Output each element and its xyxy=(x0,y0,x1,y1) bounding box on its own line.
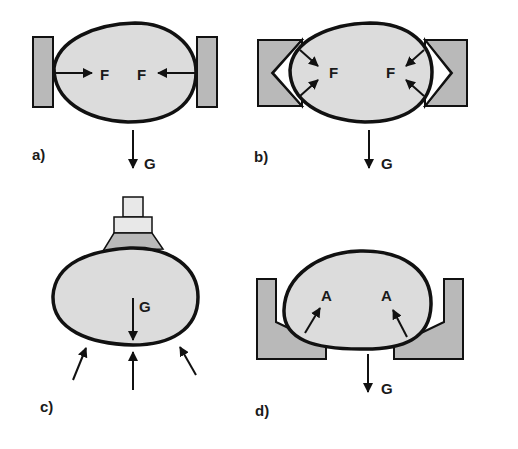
force-label: F xyxy=(386,64,395,81)
object xyxy=(290,23,432,122)
panel-d: A A G d) xyxy=(255,251,463,419)
force-label: F xyxy=(329,64,338,81)
gravity-label: G xyxy=(144,155,156,172)
object xyxy=(53,248,198,345)
panel-b: F F G b) xyxy=(254,23,467,172)
panel-label: a) xyxy=(32,146,45,163)
object xyxy=(284,251,431,349)
gravity-label: G xyxy=(139,298,151,315)
force-label: A xyxy=(381,287,392,304)
panel-label: c) xyxy=(40,398,53,415)
right-jaw xyxy=(197,37,217,107)
suction-collar xyxy=(114,217,152,233)
panel-c: G c) xyxy=(40,197,198,415)
force-label: A xyxy=(321,287,332,304)
gravity-label: G xyxy=(381,380,393,397)
force-label: F xyxy=(100,66,109,83)
left-jaw xyxy=(33,37,53,107)
gravity-label: G xyxy=(381,155,393,172)
panel-label: b) xyxy=(254,148,268,165)
suction-shaft xyxy=(123,197,143,217)
panel-label: d) xyxy=(255,402,269,419)
panel-a: F F G a) xyxy=(32,23,217,172)
gripping-principles-diagram: F F G a) F F G b) G c) xyxy=(0,0,518,449)
force-label: F xyxy=(137,66,146,83)
